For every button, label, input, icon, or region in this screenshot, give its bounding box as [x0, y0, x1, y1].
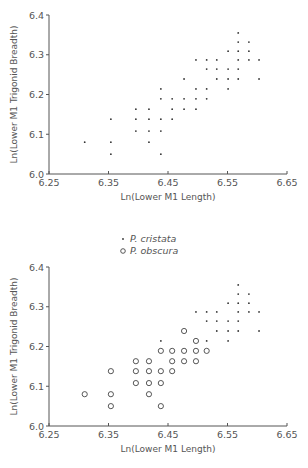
data-point [248, 311, 250, 313]
data-point [181, 348, 186, 353]
data-point [237, 302, 239, 304]
legend-label: P. obscura [130, 245, 178, 256]
data-point [258, 59, 260, 61]
data-point [195, 108, 197, 110]
y-tick-label: 6.1 [29, 129, 44, 140]
figure: 6.06.16.26.36.46.256.356.456.556.65Ln(Lo… [0, 0, 308, 468]
data-point [248, 50, 250, 52]
y-axis-label: Ln(Lower M1 Trigonid Breadth) [9, 26, 19, 164]
data-point [133, 359, 138, 364]
data-point [206, 59, 208, 61]
data-point [237, 32, 239, 34]
data-point [227, 78, 229, 80]
chart-panel-1: 6.06.16.26.36.46.256.356.456.556.65Ln(Lo… [9, 10, 298, 203]
data-point [171, 108, 173, 110]
data-point [158, 380, 163, 385]
legend-label: P. cristata [130, 233, 176, 244]
data-point [183, 98, 185, 100]
data-point [82, 392, 87, 397]
data-point [148, 108, 150, 110]
data-point [227, 330, 229, 332]
data-point [206, 320, 208, 322]
data-point [160, 98, 162, 100]
data-point [158, 348, 163, 353]
x-tick-label: 6.45 [157, 429, 178, 440]
chart-panel-2: 6.06.16.26.36.46.256.356.456.556.65Ln(Lo… [9, 233, 298, 454]
x-tick-label: 6.65 [276, 429, 297, 440]
data-point [133, 369, 138, 374]
y-tick-label: 6.3 [29, 49, 44, 60]
legend-marker-dot [122, 238, 124, 240]
data-point [160, 130, 162, 132]
data-point [110, 141, 112, 143]
data-point [248, 59, 250, 61]
data-point [258, 330, 260, 332]
x-tick-label: 6.25 [38, 177, 59, 188]
data-point [133, 380, 138, 385]
data-point [227, 88, 229, 90]
data-point [148, 130, 150, 132]
series-p-obscura [82, 328, 209, 408]
x-tick-label: 6.35 [98, 429, 119, 440]
data-point [193, 359, 198, 364]
data-point [206, 340, 208, 342]
data-point [108, 392, 113, 397]
data-point [216, 59, 218, 61]
data-point [171, 118, 173, 120]
data-point [160, 88, 162, 90]
data-point [237, 311, 239, 313]
data-point [204, 348, 209, 353]
data-point [181, 359, 186, 364]
series-p-cristata [160, 284, 260, 342]
data-point [160, 118, 162, 120]
series-all-specimens [84, 32, 260, 155]
data-point [227, 340, 229, 342]
data-point [227, 50, 229, 52]
data-point [135, 108, 137, 110]
data-point [181, 328, 186, 333]
data-point [160, 340, 162, 342]
data-point [108, 404, 113, 409]
data-point [135, 130, 137, 132]
data-point [183, 78, 185, 80]
data-point [216, 78, 218, 80]
data-point [258, 311, 260, 313]
y-tick-label: 6.4 [29, 262, 44, 273]
data-point [237, 320, 239, 322]
x-tick-label: 6.45 [157, 177, 178, 188]
data-point [206, 88, 208, 90]
data-point [195, 311, 197, 313]
data-point [237, 41, 239, 43]
data-point [146, 359, 151, 364]
data-point [237, 330, 239, 332]
data-point [237, 59, 239, 61]
data-point [148, 141, 150, 143]
data-point [206, 68, 208, 70]
data-point [227, 302, 229, 304]
data-point [158, 369, 163, 374]
data-point [146, 392, 151, 397]
data-point [84, 141, 86, 143]
y-tick-label: 6.4 [29, 10, 44, 21]
data-point [170, 359, 175, 364]
legend: P. cristataP. obscura [121, 233, 179, 256]
data-point [193, 338, 198, 343]
data-point [170, 369, 175, 374]
y-tick-label: 6.2 [29, 89, 44, 100]
data-point [195, 98, 197, 100]
data-point [146, 380, 151, 385]
data-point [146, 369, 151, 374]
y-tick-label: 6.1 [29, 381, 44, 392]
data-point [237, 284, 239, 286]
data-point [195, 88, 197, 90]
data-point [110, 153, 112, 155]
data-point [258, 78, 260, 80]
data-point [135, 118, 137, 120]
data-point [227, 320, 229, 322]
y-tick-label: 6.2 [29, 341, 44, 352]
x-tick-label: 6.65 [276, 177, 297, 188]
data-point [248, 41, 250, 43]
data-point [160, 153, 162, 155]
x-tick-label: 6.55 [217, 177, 238, 188]
data-point [148, 118, 150, 120]
